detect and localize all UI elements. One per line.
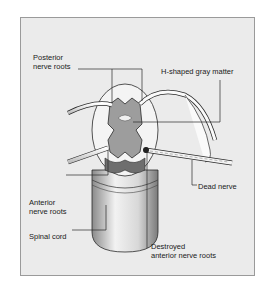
label-line: Destroyed: [151, 242, 216, 251]
label-line: Posterior: [33, 53, 71, 62]
label-line: Anterior: [29, 198, 67, 207]
label-destroyed-anterior-nerve-roots: Destroyed anterior nerve roots: [151, 242, 216, 260]
label-dead-nerve: Dead nerve: [198, 182, 237, 191]
label-line: nerve roots: [29, 207, 67, 216]
spinal-cord-illustration: [0, 0, 267, 292]
label-line: anterior nerve roots: [151, 251, 216, 260]
gray-matter-h-shape: [105, 98, 145, 173]
label-anterior-nerve-roots: Anterior nerve roots: [29, 198, 67, 216]
label-spinal-cord: Spinal cord: [29, 232, 67, 241]
label-gray-matter: H-shaped gray matter: [161, 67, 234, 76]
label-line: nerve roots: [33, 62, 71, 71]
label-posterior-nerve-roots: Posterior nerve roots: [33, 53, 71, 71]
spinal-cord-cylinder: [92, 170, 158, 252]
